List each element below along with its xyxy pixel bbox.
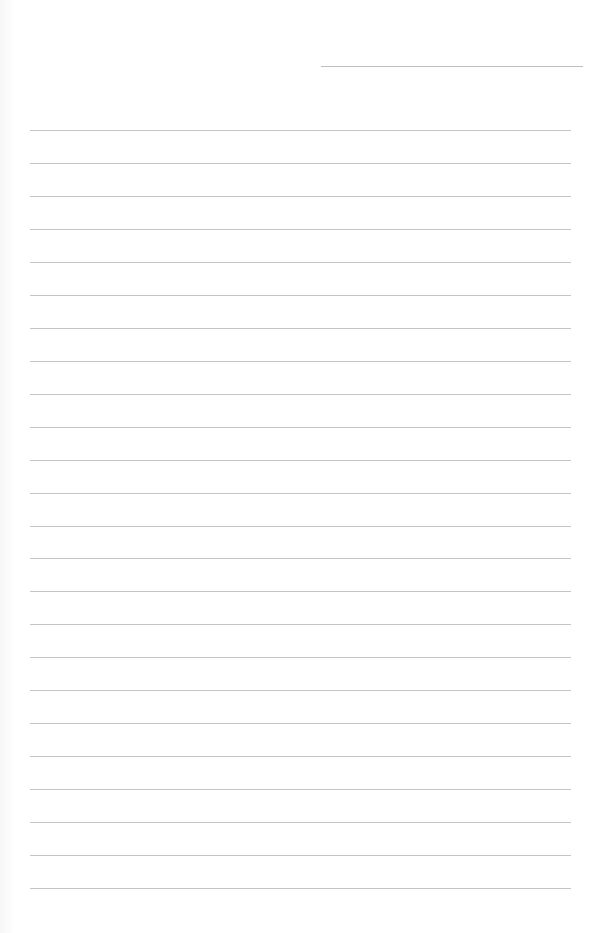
ruled-line: [30, 789, 571, 790]
ruled-line: [30, 196, 571, 197]
ruled-line: [30, 657, 571, 658]
ruled-line: [30, 624, 571, 625]
ruled-line: [30, 756, 571, 757]
lined-paper-page: [0, 0, 597, 933]
ruled-line: [30, 822, 571, 823]
ruled-line: [30, 163, 571, 164]
ruled-line: [30, 394, 571, 395]
ruled-line: [30, 558, 571, 559]
ruled-line: [30, 427, 571, 428]
ruled-line: [30, 361, 571, 362]
ruled-line: [30, 690, 571, 691]
ruled-line: [30, 460, 571, 461]
ruled-line: [30, 493, 571, 494]
ruled-line: [30, 328, 571, 329]
ruled-line: [30, 130, 571, 131]
ruled-line: [30, 855, 571, 856]
ruled-line: [30, 229, 571, 230]
ruled-line: [30, 262, 571, 263]
ruled-line: [30, 526, 571, 527]
header-line: [321, 66, 583, 67]
ruled-line: [30, 591, 571, 592]
ruled-line: [30, 295, 571, 296]
ruled-line: [30, 723, 571, 724]
ruled-line: [30, 888, 571, 889]
